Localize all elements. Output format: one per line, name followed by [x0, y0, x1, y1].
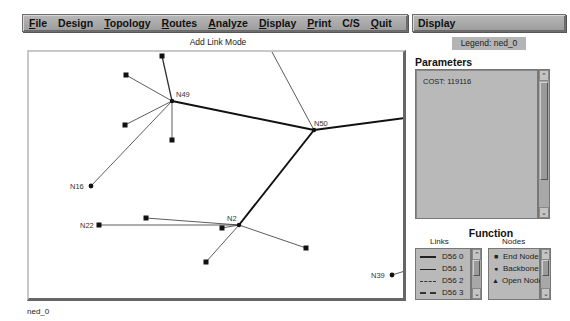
menu-display-mnemonic: D: [259, 17, 267, 29]
nodes-list[interactable]: ■End Node ●Backbone ▲Open Node: [488, 248, 540, 300]
display-panel-title: Display: [418, 17, 455, 29]
scroll-up-icon[interactable]: ⌃: [541, 249, 550, 260]
links-label: Links: [430, 237, 449, 246]
dot-icon: ●: [492, 263, 500, 275]
menu-topology-label: opology: [110, 17, 151, 29]
scroll-thumb[interactable]: [473, 260, 480, 276]
nodes-label: Nodes: [502, 237, 525, 246]
links-list[interactable]: D56 0 D56 1 D56 2 D56 3: [415, 248, 471, 300]
thick-dashed-line-icon: [420, 292, 436, 294]
square-icon: ■: [492, 251, 500, 263]
display-panel-header: Display: [412, 14, 566, 32]
dashed-line-icon: [420, 281, 436, 282]
scroll-up-icon[interactable]: ⌃: [539, 70, 549, 81]
menu-print[interactable]: Print: [307, 17, 331, 29]
node-label-n22: N22: [80, 221, 94, 230]
node-item-end-node[interactable]: ■End Node: [489, 251, 539, 263]
link-item-label: D56 2: [442, 275, 463, 287]
menu-bar: File Design Topology Routes Analyze Disp…: [22, 14, 408, 32]
menu-routes[interactable]: Routes: [162, 17, 198, 29]
menu-quit-label: uit: [379, 17, 392, 29]
menu-display[interactable]: Display: [259, 17, 296, 29]
network-canvas[interactable]: N49 N50 N2 N16 N22 N39: [27, 50, 406, 301]
nodes-scrollbar[interactable]: ⌃ ⌄: [540, 248, 551, 300]
status-text: ned_0: [27, 307, 49, 316]
menu-print-label: rint: [314, 17, 331, 29]
node-label-n49: N49: [176, 90, 190, 99]
menu-routes-label: outes: [169, 17, 197, 29]
network-graph: N49 N50 N2 N16 N22 N39: [29, 52, 403, 298]
triangle-icon: ▲: [492, 275, 499, 287]
node-item-backbone[interactable]: ●Backbone: [489, 263, 539, 275]
scroll-thumb[interactable]: [540, 82, 548, 180]
node-label-n16: N16: [70, 182, 84, 191]
mode-label: Add Link Mode: [160, 37, 276, 47]
end-nodes: [97, 54, 309, 265]
legend-badge: Legend: ned_0: [452, 37, 526, 50]
node-label-n39: N39: [371, 271, 385, 280]
node-label-n50: N50: [314, 119, 328, 128]
menu-quit-mnemonic: Q: [371, 17, 379, 29]
parameters-textarea[interactable]: COST: 119116: [415, 69, 538, 219]
menu-design[interactable]: Design: [58, 17, 93, 29]
node-item-label: End Node: [503, 251, 539, 263]
menu-file-label: ile: [35, 17, 47, 29]
link-item-label: D56 3: [442, 287, 463, 299]
menu-cs-label: C/S: [342, 17, 360, 29]
node-item-label: Backbone: [503, 263, 539, 275]
scroll-down-icon[interactable]: ⌄: [541, 288, 550, 299]
node-label-n2: N2: [227, 214, 237, 223]
link-item-d56-0[interactable]: D56 0: [416, 251, 470, 263]
menu-design-label: Design: [58, 17, 93, 29]
menu-analyze[interactable]: Analyze: [208, 17, 248, 29]
scroll-down-icon[interactable]: ⌄: [472, 288, 481, 299]
scroll-thumb[interactable]: [542, 260, 549, 276]
node-item-open-node[interactable]: ▲Open Node: [489, 275, 539, 287]
menu-quit[interactable]: Quit: [371, 17, 392, 29]
menu-analyze-label: nalyze: [216, 17, 248, 29]
node-item-label: Open Node: [502, 275, 543, 287]
thin-line-icon: [420, 269, 436, 270]
parameters-scrollbar[interactable]: ⌃ ⌄: [538, 69, 550, 219]
menu-file[interactable]: File: [29, 17, 47, 29]
access-links: [91, 52, 403, 275]
parameters-title: Parameters: [415, 56, 472, 68]
menu-topology[interactable]: Topology: [104, 17, 150, 29]
thick-line-icon: [420, 256, 436, 258]
link-item-d56-1[interactable]: D56 1: [416, 263, 470, 275]
menu-display-label: isplay: [267, 17, 297, 29]
link-item-label: D56 1: [442, 263, 463, 275]
menu-cs[interactable]: C/S: [342, 17, 360, 29]
link-item-d56-2[interactable]: D56 2: [416, 275, 470, 287]
backbone-links: [172, 101, 403, 225]
menu-analyze-mnemonic: A: [208, 17, 216, 29]
link-item-label: D56 0: [442, 251, 463, 263]
scroll-up-icon[interactable]: ⌃: [472, 249, 481, 260]
parameters-content: COST: 119116: [423, 77, 471, 86]
links-scrollbar[interactable]: ⌃ ⌄: [471, 248, 482, 300]
scroll-down-icon[interactable]: ⌄: [539, 207, 549, 218]
link-item-d56-3[interactable]: D56 3: [416, 287, 470, 299]
